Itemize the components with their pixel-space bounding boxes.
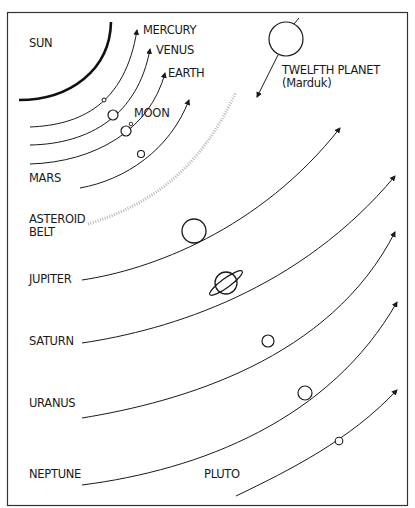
label-moon: MOON <box>134 107 169 120</box>
sun-arc <box>19 22 111 100</box>
label-saturn: SATURN <box>29 335 74 348</box>
jupiter-orbit <box>82 128 340 280</box>
venus-planet <box>108 110 118 120</box>
mars-planet <box>138 151 145 158</box>
saturn-orbit <box>82 176 395 343</box>
label-asteroid-belt-line2: BELT <box>29 226 55 239</box>
pluto-planet <box>335 437 343 445</box>
label-pluto: PLUTO <box>204 468 240 481</box>
saturn-planet <box>207 268 245 299</box>
mercury-planet <box>102 98 106 102</box>
label-twelfth-planet-alias: (Marduk) <box>282 77 331 90</box>
twelfth-planet-path <box>257 55 278 97</box>
twelfth-planet-path-top <box>294 18 299 24</box>
twelfth-planet <box>269 22 303 56</box>
diagram-frame <box>8 13 408 506</box>
moon <box>129 122 133 126</box>
neptune-planet <box>298 386 312 400</box>
jupiter-planet <box>182 219 206 243</box>
pluto-orbit <box>236 390 397 496</box>
label-earth: EARTH <box>168 67 204 80</box>
uranus-orbit <box>82 232 395 418</box>
uranus-planet <box>262 335 274 347</box>
label-mercury: MERCURY <box>143 24 196 37</box>
label-venus: VENUS <box>156 44 194 57</box>
label-sun: SUN <box>29 37 52 50</box>
earth-planet <box>121 126 131 136</box>
label-uranus: URANUS <box>29 397 75 410</box>
neptune-orbit <box>82 302 397 485</box>
label-jupiter: JUPITER <box>29 273 71 286</box>
label-mars: MARS <box>29 172 61 185</box>
solar-system-diagram: SUN MERCURY VENUS EARTH MOON MARS ASTERO… <box>0 0 415 508</box>
label-neptune: NEPTUNE <box>29 468 81 481</box>
